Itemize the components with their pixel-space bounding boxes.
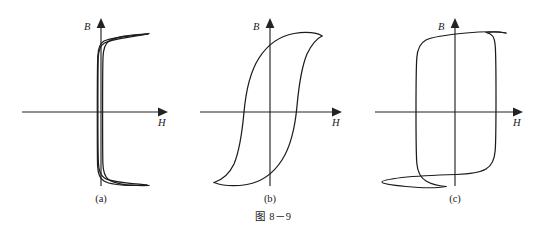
h-axis-arrow-a bbox=[158, 108, 168, 117]
loop-a-outer-branch bbox=[103, 34, 149, 186]
b-axis-label-a: B bbox=[84, 21, 91, 32]
loop-a-descending-branch bbox=[97, 34, 148, 185]
h-axis-label-b: H bbox=[331, 117, 341, 128]
b-axis-arrow-a bbox=[97, 18, 106, 28]
h-axis-label-a: H bbox=[157, 117, 167, 128]
h-axis-label-c: H bbox=[512, 117, 522, 128]
panel-tag-b: (b) bbox=[264, 193, 277, 205]
figure-caption: 图 8－9 bbox=[0, 208, 547, 223]
b-axis-label-c: B bbox=[438, 21, 445, 32]
panel-c-rectangular-loop: B H (c) bbox=[358, 0, 540, 210]
panel-tag-c: (c) bbox=[449, 193, 461, 205]
figure-hysteresis-loops: B H (a) B H (b) bbox=[0, 0, 547, 239]
panel-row: B H (a) B H (b) bbox=[0, 0, 547, 210]
b-axis-arrow-c bbox=[451, 18, 460, 28]
b-axis-label-b: B bbox=[253, 21, 260, 32]
loop-b-descending-branch bbox=[214, 32, 322, 182]
panel-a-narrow-loop: B H (a) bbox=[0, 0, 182, 210]
loop-b-ascending-branch bbox=[214, 36, 322, 186]
h-axis-arrow-c bbox=[513, 108, 523, 117]
loop-a-ascending-branch bbox=[98, 34, 148, 185]
loop-c-descending-branch bbox=[416, 32, 506, 187]
panel-tag-a: (a) bbox=[95, 193, 107, 205]
panel-b-wide-loop: B H (b) bbox=[180, 0, 362, 210]
loop-c-ascending-branch bbox=[382, 32, 506, 188]
h-axis-arrow-b bbox=[332, 108, 342, 117]
b-axis-arrow-b bbox=[266, 18, 275, 28]
